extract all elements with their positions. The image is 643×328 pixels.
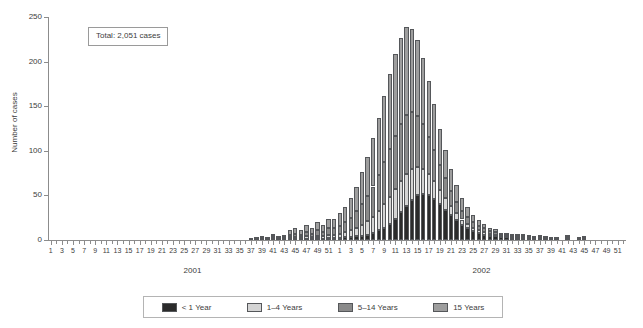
bar-segment xyxy=(326,219,330,229)
bar-column xyxy=(377,118,381,240)
x-axis-tick xyxy=(529,241,530,245)
bar-segment xyxy=(349,218,353,230)
legend-item[interactable]: 15 Years xyxy=(433,303,484,312)
bar-column xyxy=(343,207,347,240)
legend-item[interactable]: < 1 Year xyxy=(162,303,212,312)
y-axis-tick-labels: 050100150200250 xyxy=(0,0,42,250)
bar-column xyxy=(332,219,336,240)
x-axis-tick xyxy=(418,241,419,245)
x-axis-tick xyxy=(79,241,80,244)
x-axis-tick xyxy=(312,241,313,244)
bar-segment xyxy=(432,181,436,199)
bar-segment xyxy=(532,236,536,238)
bar-segment xyxy=(304,236,308,239)
bar-column xyxy=(477,220,481,240)
bar-segment xyxy=(471,228,475,232)
legend-item[interactable]: 5–14 Years xyxy=(338,303,398,312)
x-axis-tick xyxy=(295,241,296,245)
x-axis-tick xyxy=(368,241,369,244)
bar-segment xyxy=(304,232,308,236)
bar-segment xyxy=(577,237,581,239)
x-axis-tick xyxy=(623,241,624,244)
bar-segment xyxy=(538,235,542,237)
x-axis-tick xyxy=(445,241,446,244)
bar-column xyxy=(465,207,469,240)
bar-segment xyxy=(504,233,508,235)
x-axis-tick xyxy=(151,241,152,245)
bar-segment xyxy=(293,228,297,233)
bar-segment xyxy=(493,232,497,235)
y-axis-tick-label: 100 xyxy=(12,147,42,155)
bar-segment xyxy=(371,187,375,217)
x-axis-tick xyxy=(51,241,52,245)
x-axis-tick xyxy=(429,241,430,245)
bar-segment xyxy=(360,204,364,225)
bar-column xyxy=(388,74,392,240)
bar-segment xyxy=(349,230,353,237)
x-axis-tick xyxy=(184,241,185,245)
bar-segment xyxy=(382,96,386,163)
x-axis-tick xyxy=(551,241,552,245)
bar-segment xyxy=(343,232,347,237)
bar-segment xyxy=(299,235,303,238)
bar-segment xyxy=(410,200,414,240)
x-axis-tick xyxy=(95,241,96,245)
x-axis-tick xyxy=(123,241,124,244)
x-axis-tick xyxy=(490,241,491,244)
x-axis-tick xyxy=(229,241,230,245)
bar-segment xyxy=(460,198,464,210)
bar-column xyxy=(360,172,364,240)
bar-column xyxy=(293,228,297,240)
bar-segment xyxy=(404,27,408,115)
bar-segment xyxy=(399,38,403,125)
x-axis-tick xyxy=(140,241,141,245)
bar-segment xyxy=(382,228,386,240)
x-axis-tick xyxy=(117,241,118,245)
bar-segment xyxy=(427,195,431,240)
bar-column xyxy=(382,96,386,241)
x-axis-tick-label: 51 xyxy=(611,247,625,255)
y-axis-tick-label: 0 xyxy=(12,236,42,244)
bar-segment xyxy=(410,112,414,168)
x-axis-tick xyxy=(268,241,269,244)
bar-segment xyxy=(371,138,375,186)
x-axis-tick xyxy=(434,241,435,244)
x-axis-tick xyxy=(468,241,469,244)
x-axis-tick xyxy=(212,241,213,244)
bar-segment xyxy=(332,219,336,229)
bar-segment xyxy=(488,234,492,236)
x-axis-tick xyxy=(112,241,113,244)
bar-segment xyxy=(388,197,392,224)
bar-segment xyxy=(310,228,314,234)
bar-column xyxy=(326,219,330,240)
x-axis-tick xyxy=(440,241,441,245)
x-axis-tick xyxy=(201,241,202,244)
bar-segment xyxy=(371,233,375,240)
x-axis-tick xyxy=(384,241,385,245)
bar-segment xyxy=(360,225,364,236)
legend-item[interactable]: 1–4 Years xyxy=(247,303,303,312)
bar-segment xyxy=(449,169,453,191)
bar-segment xyxy=(321,232,325,236)
bar-column xyxy=(415,40,419,240)
bar-segment xyxy=(393,189,397,218)
bar-segment xyxy=(388,224,392,240)
bar-segment xyxy=(454,220,458,240)
bar-segment xyxy=(510,235,514,237)
bar-segment xyxy=(465,228,469,240)
bar-segment xyxy=(432,199,436,240)
bar-segment xyxy=(471,231,475,240)
bar-segment xyxy=(421,58,425,124)
bar-segment xyxy=(321,236,325,239)
bar-segment xyxy=(493,234,497,236)
bar-segment xyxy=(310,237,314,239)
x-axis-tick xyxy=(240,241,241,245)
bar-segment xyxy=(415,167,419,196)
bar-segment xyxy=(499,233,503,235)
bar-column xyxy=(399,38,403,240)
bar-segment xyxy=(326,228,330,234)
y-axis-tick-label: 250 xyxy=(12,13,42,21)
x-axis-tick xyxy=(607,241,608,245)
x-axis-tick xyxy=(601,241,602,244)
x-axis-tick xyxy=(540,241,541,245)
